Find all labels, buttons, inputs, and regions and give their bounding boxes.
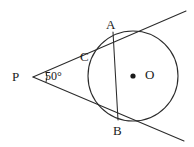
point-label-o: O <box>145 68 154 81</box>
geometry-canvas <box>0 0 194 147</box>
geometry-figure: P A B C O 50° <box>0 0 194 147</box>
tangent-line-lower <box>33 77 184 141</box>
chord-ab <box>113 32 118 120</box>
point-label-c: C <box>80 50 89 63</box>
point-label-a: A <box>106 18 115 31</box>
angle-measure-label: 50° <box>45 70 62 82</box>
point-label-b: B <box>113 124 122 137</box>
center-dot-o <box>130 73 135 78</box>
point-label-p: P <box>12 70 19 83</box>
